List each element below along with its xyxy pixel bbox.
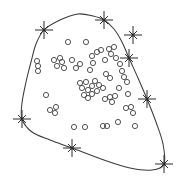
plot-background xyxy=(0,0,185,181)
star-center xyxy=(103,19,106,22)
star-center xyxy=(146,98,149,101)
star-center xyxy=(71,147,74,150)
plot-canvas xyxy=(0,0,185,181)
star-center xyxy=(21,118,24,121)
star-center xyxy=(132,34,135,37)
scatter-figure xyxy=(0,0,185,181)
star-center xyxy=(163,163,166,166)
star-center xyxy=(128,57,131,60)
star-center xyxy=(43,29,46,32)
